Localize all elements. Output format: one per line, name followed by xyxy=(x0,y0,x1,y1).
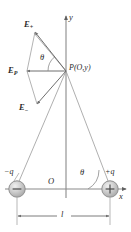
dipole-field-figure: E+ EP E− P(O,y) y x O −q +q θ θ l xyxy=(0,0,131,232)
label-e-resultant: EP xyxy=(8,66,17,76)
charge-positive xyxy=(102,181,118,197)
label-theta-upper: θ xyxy=(40,53,44,62)
parallelogram-side-upper xyxy=(27,32,35,71)
parallelogram-side-lower xyxy=(27,71,37,104)
label-origin: O xyxy=(48,177,54,186)
angle-arcs xyxy=(48,57,99,189)
theta-arc-lower xyxy=(88,170,99,189)
label-x-axis: x xyxy=(119,192,123,201)
charge-negative-leader xyxy=(14,173,19,181)
label-point-p: P(O,y) xyxy=(69,64,91,72)
label-e-plus: E+ xyxy=(24,20,33,30)
theta-arc-upper xyxy=(48,57,55,71)
charge-negative xyxy=(9,173,25,197)
label-separation: l xyxy=(61,210,63,219)
label-charge-negative: −q xyxy=(4,168,13,176)
figure-canvas xyxy=(0,0,131,232)
field-construction-lines xyxy=(17,33,110,186)
separation-dimension xyxy=(17,198,110,225)
vector-e-minus xyxy=(37,71,66,104)
vector-parallelogram xyxy=(27,32,66,104)
label-e-minus: E− xyxy=(19,103,28,113)
label-y-axis: y xyxy=(69,13,73,22)
line-negcharge-to-p xyxy=(17,71,66,186)
label-charge-positive: +q xyxy=(105,168,114,176)
label-theta-lower: θ xyxy=(80,168,84,177)
line-poscharge-to-p xyxy=(66,71,110,186)
